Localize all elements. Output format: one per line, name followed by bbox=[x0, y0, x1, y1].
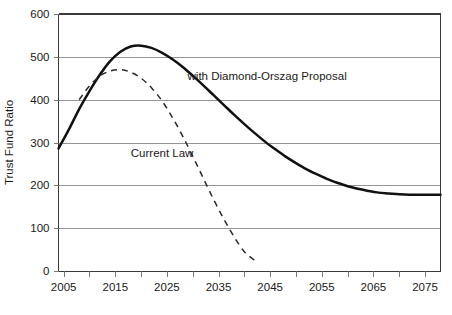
tick-labels-group: 0100200300400500600200520152025203520452… bbox=[30, 8, 437, 293]
axes-group bbox=[59, 14, 441, 272]
x-tick-label-2065: 2065 bbox=[361, 281, 387, 293]
tick-marks-group bbox=[54, 15, 426, 278]
y-tick-label-400: 400 bbox=[30, 94, 49, 106]
series-annotation-diamond-orszag: with Diamond-Orszag Proposal bbox=[187, 70, 347, 82]
x-tick-label-2025: 2025 bbox=[154, 281, 180, 293]
x-tick-label-2055: 2055 bbox=[309, 281, 335, 293]
x-tick-label-2045: 2045 bbox=[257, 281, 283, 293]
y-tick-label-200: 200 bbox=[30, 179, 49, 191]
x-tick-label-2015: 2015 bbox=[102, 281, 128, 293]
x-tick-label-2035: 2035 bbox=[206, 281, 232, 293]
y-tick-label-0: 0 bbox=[43, 265, 49, 277]
chart-container: 0100200300400500600200520152025203520452… bbox=[0, 0, 452, 315]
series-annotation-current-law: Current Law bbox=[131, 147, 194, 159]
series-line-current-law bbox=[79, 70, 255, 261]
y-tick-label-600: 600 bbox=[30, 8, 49, 20]
y-tick-label-300: 300 bbox=[30, 137, 49, 149]
trust-fund-ratio-line-chart: 0100200300400500600200520152025203520452… bbox=[0, 0, 452, 315]
annotations-group: with Diamond-Orszag ProposalCurrent Law bbox=[131, 70, 347, 158]
gridlines-group bbox=[59, 15, 441, 272]
y-tick-label-500: 500 bbox=[30, 51, 49, 63]
x-tick-label-2005: 2005 bbox=[51, 281, 77, 293]
y-tick-label-100: 100 bbox=[30, 222, 49, 234]
axis-title-group: Trust Fund Ratio bbox=[3, 100, 15, 185]
x-tick-label-2075: 2075 bbox=[412, 281, 438, 293]
series-line-diamond-orszag bbox=[59, 46, 441, 195]
y-axis-title: Trust Fund Ratio bbox=[3, 100, 15, 185]
